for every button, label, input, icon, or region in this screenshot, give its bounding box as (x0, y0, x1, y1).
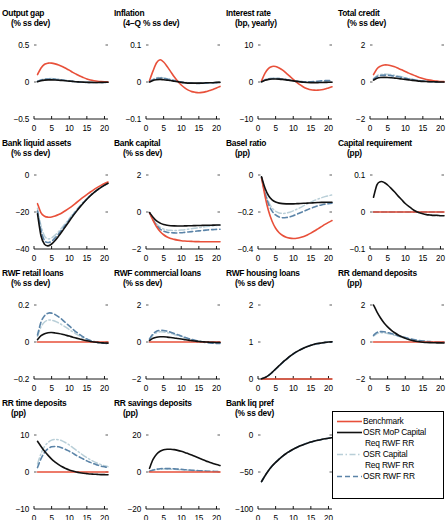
series-line-osr_rwf_rr (38, 184, 108, 243)
x-tick-label: 10 (289, 254, 298, 263)
x-tick-label: 0 (256, 124, 261, 133)
panel-title-line1: RWF commercial loans (112, 268, 224, 278)
series-line-osr_mop_capital_req_rwf_rr (374, 182, 444, 216)
x-tick-label: 20 (436, 384, 445, 393)
chart-panel-rr-time-deposits: RR time deposits(pp)−1001005101520 (0, 398, 112, 520)
panel-title-line2: (pp) (336, 278, 448, 288)
x-tick-label: 0 (256, 254, 261, 263)
legend-label-continuation: Req RWF RR (365, 438, 414, 449)
series-line-osr_rwf_rr (38, 446, 108, 467)
series-line-benchmark (262, 178, 332, 239)
x-tick-label: 5 (161, 124, 166, 133)
y-tick-label: 0 (137, 78, 142, 87)
chart-panel-total-credit: Total credit(% ss dev)−20205101520 (336, 8, 448, 138)
y-tick-label: 0 (25, 78, 30, 87)
x-tick-label: 10 (289, 514, 298, 520)
legend-entry-1[interactable]: OSR MoP Capital (336, 427, 440, 438)
y-tick-label: −2 (356, 375, 366, 384)
y-tick-label: −0.4 (238, 245, 254, 254)
panel-title-rwf-retail-loans: RWF retail loans(% ss dev) (0, 268, 112, 288)
legend-swatch-icon (336, 471, 363, 482)
panel-title-output-gap: Output gap(% ss dev) (0, 8, 112, 28)
series-line-osr_rwf_rr (374, 332, 444, 343)
legend-label: OSR RWF RR (363, 471, 415, 482)
x-tick-label: 5 (161, 384, 166, 393)
panel-title-line2: (% ss dev) (224, 278, 336, 288)
y-tick-label: 0 (137, 468, 142, 477)
panel-title-line2: (pp) (224, 148, 336, 158)
x-tick-label: 10 (289, 124, 298, 133)
x-tick-label: 15 (306, 254, 315, 263)
chart-panel-bank-capital: Bank capital(% ss dev)−20205101520 (112, 138, 224, 268)
x-tick-label: 10 (177, 514, 186, 520)
x-tick-label: 10 (65, 384, 74, 393)
y-tick-label: 0 (249, 171, 254, 180)
legend-entry-1-line2: Req RWF RR (336, 438, 440, 449)
y-tick-label: 10 (244, 41, 253, 50)
plot-area-interest-rate: −1001005101520 (224, 29, 336, 138)
panel-title-basel-ratio: Basel ratio(pp) (224, 138, 336, 158)
y-tick-label: 2 (137, 171, 142, 180)
x-tick-label: 20 (212, 254, 221, 263)
legend-entry-0[interactable]: Benchmark (336, 416, 440, 427)
y-tick-label: 2 (137, 301, 142, 310)
y-tick-label: −0.1 (126, 115, 142, 124)
y-tick-label: −2 (356, 115, 366, 124)
series-line-osr_capital_req_rwf_rr (262, 438, 332, 482)
plot-area-capital-requirement: −0.100.105101520 (336, 159, 448, 268)
y-tick-label: 0.1 (130, 41, 141, 50)
y-tick-label: 0 (25, 171, 30, 180)
panel-title-rr-demand-deposits: RR demand deposits(pp) (336, 268, 448, 288)
plot-area-total-credit: −20205101520 (336, 29, 448, 138)
x-tick-label: 0 (256, 384, 261, 393)
y-tick-label: −2 (132, 375, 142, 384)
series-line-osr_capital_req_rwf_rr (38, 183, 108, 239)
x-tick-label: 15 (82, 124, 91, 133)
y-tick-label: 1 (249, 338, 254, 347)
legend-entry-3[interactable]: OSR RWF RR (336, 471, 440, 482)
series-line-osr_capital_req_rwf_rr (262, 177, 332, 213)
y-tick-label: 0 (361, 208, 366, 217)
y-tick-label: −20 (16, 208, 30, 217)
chart-panel-output-gap: Output gap(% ss dev)−0.500.505101520 (0, 8, 112, 138)
series-line-osr_mop_capital_req_rwf_rr (262, 342, 332, 379)
chart-panel-interest-rate: Interest rate(bp, yearly)−1001005101520 (224, 8, 336, 138)
chart-panel-bank-liquid-assets: Bank liquid assets(% ss dev)−40−20005101… (0, 138, 112, 268)
x-tick-label: 20 (212, 384, 221, 393)
panel-title-line1: Interest rate (224, 8, 336, 18)
x-tick-label: 20 (100, 384, 109, 393)
series-line-osr_mop_capital_req_rwf_rr (262, 177, 332, 204)
series-line-osr_mop_capital_req_rwf_rr (374, 305, 444, 343)
panel-title-line1: RWF housing loans (224, 268, 336, 278)
plot-area-output-gap: −0.500.505101520 (0, 29, 112, 138)
legend-swatch-icon (336, 449, 363, 460)
x-tick-label: 10 (65, 254, 74, 263)
panel-title-line2: (% ss dev) (0, 148, 112, 158)
x-tick-label: 20 (324, 384, 333, 393)
y-tick-label: −10 (240, 115, 254, 124)
x-tick-label: 5 (385, 254, 390, 263)
panel-title-line1: Output gap (0, 8, 112, 18)
y-tick-label: 0.2 (18, 301, 29, 310)
panel-title-capital-requirement: Capital requirement(pp) (336, 138, 448, 158)
y-tick-label: −10 (16, 505, 30, 514)
x-tick-label: 10 (401, 124, 410, 133)
legend-entry-2[interactable]: OSR Capital (336, 449, 440, 460)
y-tick-label: −0.1 (350, 245, 366, 254)
x-tick-label: 0 (32, 254, 37, 263)
panel-title-bank-liq-pref: Bank liq pref(% ss dev) (224, 398, 336, 418)
y-tick-label: −40 (16, 245, 30, 254)
x-tick-label: 10 (289, 384, 298, 393)
plot-area-basel-ratio: −0.4−0.2005101520 (224, 159, 336, 268)
x-tick-label: 20 (436, 254, 445, 263)
panel-title-line2: (% ss dev) (112, 148, 224, 158)
plot-area-rr-demand-deposits: −20205101520 (336, 289, 448, 398)
x-tick-label: 5 (49, 124, 54, 133)
y-tick-label: 2 (361, 41, 366, 50)
chart-panel-inflation: Inflation(4−Q % ss dev)−0.100.105101520 (112, 8, 224, 138)
series-line-osr_mop_capital_req_rwf_rr (150, 213, 220, 226)
chart-panel-rwf-retail-loans: RWF retail loans(% ss dev)−0.200.2051015… (0, 268, 112, 398)
series-line-osr_capital_req_rwf_rr (374, 333, 444, 343)
panel-title-line2: (pp) (336, 148, 448, 158)
x-tick-label: 0 (368, 254, 373, 263)
